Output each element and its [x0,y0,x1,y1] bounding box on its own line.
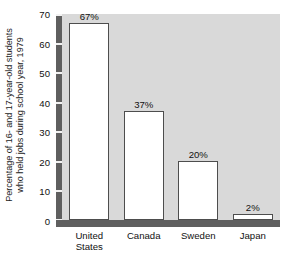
bar-slot: 20% [171,14,226,220]
x-axis-rail [56,220,280,227]
bar-value-label: 20% [189,149,208,160]
y-axis-tick-label: 70 [39,9,50,20]
bar-slot: 37% [117,14,172,220]
bar-chart-figure: Percentage of 16- and 17-year-old studen… [0,0,293,278]
x-axis-category-line: Japan [226,230,281,241]
y-axis-tick-label: 50 [39,68,50,79]
y-axis-tick-labels: 010203040506070 [26,0,53,230]
y-axis-title-line-1: Percentage of 16- and 17-year-old studen… [4,28,15,201]
bars-layer: 67%37%20%2% [62,14,280,220]
bar-value-label: 2% [246,202,260,213]
x-axis-category-label: Sweden [171,230,226,270]
bar[interactable] [178,161,218,220]
bar-slot: 2% [226,14,281,220]
x-axis-category-label: Canada [117,230,172,270]
x-axis-category-labels: UnitedStatesCanadaSwedenJapan [62,230,280,270]
bar[interactable] [69,23,109,220]
x-axis-category-line: States [62,241,117,252]
bar[interactable] [124,111,164,220]
y-axis-tick-label: 60 [39,38,50,49]
x-axis-category-line: Canada [117,230,172,241]
y-axis-tick-label: 30 [39,127,50,138]
y-axis-tick-label: 10 [39,186,50,197]
y-axis-tick-label: 0 [45,216,50,227]
x-axis-category-line: Sweden [171,230,226,241]
bar-value-label: 67% [80,11,99,22]
x-axis-category-label: Japan [226,230,281,270]
bar-value-label: 37% [134,99,153,110]
plot-area: 67%37%20%2% [62,14,280,220]
bar-slot: 67% [62,14,117,220]
x-axis-category-line: United [62,230,117,241]
y-axis-tick-label: 20 [39,156,50,167]
y-axis-title-line-2: who held jobs during school year, 1979 [15,37,26,192]
y-axis-tick-label: 40 [39,97,50,108]
x-axis-category-label: UnitedStates [62,230,117,270]
